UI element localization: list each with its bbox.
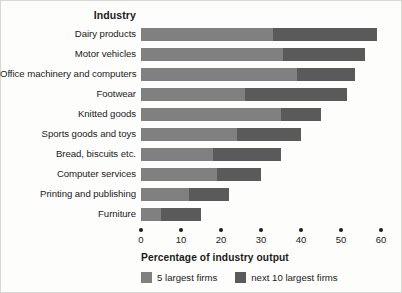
bar-segment-five-largest xyxy=(141,68,297,81)
axis-tick-label: 40 xyxy=(296,234,307,245)
legend-swatch-five-largest xyxy=(141,272,152,283)
bar-row: Furniture xyxy=(0,204,402,224)
plot-area: Dairy productsMotor vehiclesOffice machi… xyxy=(0,24,402,224)
axis-tick-mark xyxy=(219,228,223,232)
bar-row-label: Furniture xyxy=(0,204,136,224)
bar-segment-five-largest xyxy=(141,208,161,221)
bar-row: Sports goods and toys xyxy=(0,124,402,144)
bar-segment-next-ten-largest xyxy=(237,128,301,141)
bar-segment-next-ten-largest xyxy=(189,188,229,201)
bar-segment-next-ten-largest xyxy=(213,148,281,161)
bar-segment-five-largest xyxy=(141,188,189,201)
stacked-bar xyxy=(141,188,229,201)
stacked-bar xyxy=(141,208,201,221)
stacked-bar xyxy=(141,88,347,101)
axis-tick-label: 60 xyxy=(376,234,387,245)
bar-segment-next-ten-largest xyxy=(297,68,355,81)
bar-segment-next-ten-largest xyxy=(273,28,377,41)
bar-segment-next-ten-largest xyxy=(283,48,365,61)
bar-segment-next-ten-largest xyxy=(245,88,347,101)
axis-tick-mark xyxy=(139,228,143,232)
axis-tick-mark xyxy=(259,228,263,232)
axis-tick-label: 50 xyxy=(336,234,347,245)
legend-label: next 10 largest firms xyxy=(251,272,337,283)
x-axis: 0102030405060 xyxy=(0,224,402,250)
bar-row-label: Footwear xyxy=(0,84,136,104)
bar-row: Computer services xyxy=(0,164,402,184)
industry-concentration-chart: Industry Dairy productsMotor vehiclesOff… xyxy=(0,0,402,293)
stacked-bar xyxy=(141,148,281,161)
axis-tick-mark xyxy=(339,228,343,232)
bar-row: Dairy products xyxy=(0,24,402,44)
bar-segment-next-ten-largest xyxy=(281,108,321,121)
bar-segment-five-largest xyxy=(141,48,283,61)
axis-tick-label: 30 xyxy=(256,234,267,245)
axis-tick-label: 10 xyxy=(176,234,187,245)
bar-segment-five-largest xyxy=(141,128,237,141)
bar-segment-five-largest xyxy=(141,148,213,161)
stacked-bar xyxy=(141,168,261,181)
bar-row: Bread, biscuits etc. xyxy=(0,144,402,164)
bar-row: Knitted goods xyxy=(0,104,402,124)
bar-row-label: Knitted goods xyxy=(0,104,136,124)
stacked-bar xyxy=(141,48,365,61)
bar-row: Footwear xyxy=(0,84,402,104)
bar-row: Printing and publishing xyxy=(0,184,402,204)
bar-segment-next-ten-largest xyxy=(161,208,201,221)
bar-segment-next-ten-largest xyxy=(217,168,261,181)
bar-segment-five-largest xyxy=(141,108,281,121)
axis-tick-mark xyxy=(379,228,383,232)
legend-item: next 10 largest firms xyxy=(235,272,337,283)
bar-row-label: Motor vehicles xyxy=(0,44,136,64)
axis-tick-label: 0 xyxy=(138,234,143,245)
axis-tick-mark xyxy=(179,228,183,232)
bar-row-label: Office machinery and computers xyxy=(0,64,136,84)
category-column-header: Industry xyxy=(0,9,136,21)
bar-row-label: Sports goods and toys xyxy=(0,124,136,144)
bar-segment-five-largest xyxy=(141,88,245,101)
axis-tick-label: 20 xyxy=(216,234,227,245)
stacked-bar xyxy=(141,68,355,81)
chart-legend: 5 largest firmsnext 10 largest firms xyxy=(141,272,350,283)
bar-row: Office machinery and computers xyxy=(0,64,402,84)
bar-row-label: Computer services xyxy=(0,164,136,184)
stacked-bar xyxy=(141,128,301,141)
legend-label: 5 largest firms xyxy=(157,272,217,283)
bar-row-label: Dairy products xyxy=(0,24,136,44)
axis-tick-mark xyxy=(299,228,303,232)
bar-segment-five-largest xyxy=(141,168,217,181)
stacked-bar xyxy=(141,108,321,121)
stacked-bar xyxy=(141,28,377,41)
legend-swatch-next-ten xyxy=(235,272,246,283)
bar-row-label: Printing and publishing xyxy=(0,184,136,204)
legend-item: 5 largest firms xyxy=(141,272,217,283)
bar-segment-five-largest xyxy=(141,28,273,41)
bar-row-label: Bread, biscuits etc. xyxy=(0,144,136,164)
x-axis-title: Percentage of industry output xyxy=(141,252,289,263)
bar-row: Motor vehicles xyxy=(0,44,402,64)
